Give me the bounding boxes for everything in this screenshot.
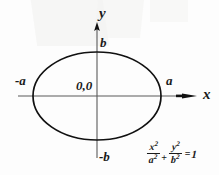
x-axis-arrow-tail bbox=[176, 95, 184, 98]
top-vertex-label: b bbox=[100, 36, 107, 49]
equation-numerator-x: x2 bbox=[147, 142, 160, 153]
equation-denominator-b: b2 bbox=[169, 153, 182, 165]
ellipse-equation: x2 a2 + y2 b2 = 1 bbox=[146, 142, 197, 165]
equation-equals-sign: = bbox=[181, 148, 191, 159]
left-vertex-label: -a bbox=[15, 74, 26, 87]
right-vertex-label: a bbox=[166, 74, 173, 87]
bottom-vertex-label: -b bbox=[99, 150, 110, 163]
x-axis-arrowhead bbox=[182, 93, 197, 98]
y-axis-label: y bbox=[99, 6, 106, 21]
equation-result: 1 bbox=[191, 148, 197, 160]
ellipse-diagram: y x b -b a -a 0,0 x2 a2 + y2 b2 = 1 bbox=[0, 0, 219, 175]
equation-denominator-a: a2 bbox=[146, 153, 159, 165]
equation-numerator-y: y2 bbox=[169, 142, 182, 153]
origin-label: 0,0 bbox=[76, 79, 92, 92]
equation-fraction-y: y2 b2 bbox=[169, 142, 183, 165]
x-axis-label: x bbox=[203, 87, 211, 102]
